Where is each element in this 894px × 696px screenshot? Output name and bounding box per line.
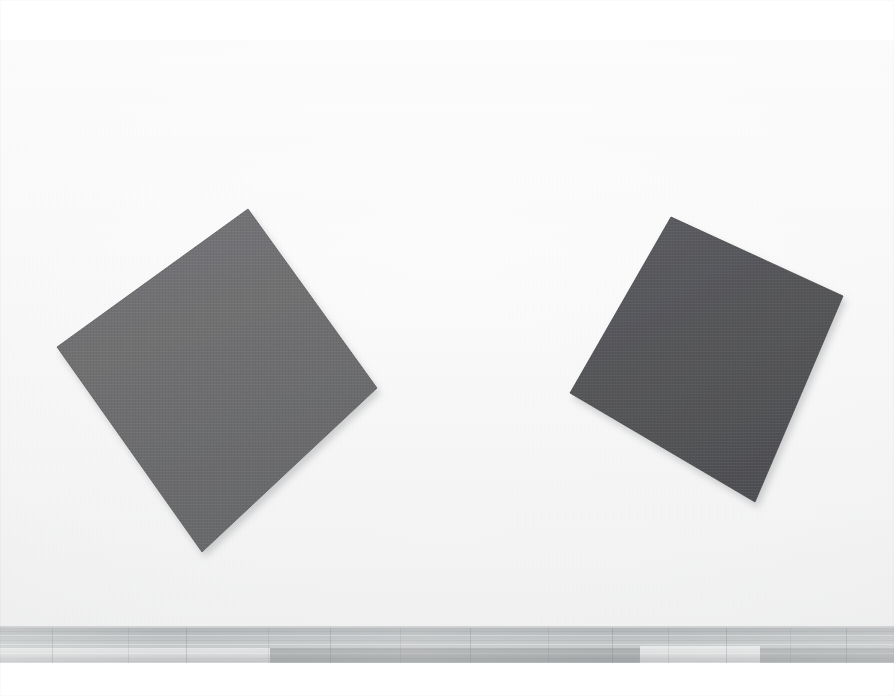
artwork-panel-left-texture (57, 209, 377, 552)
artwork-layer (0, 0, 894, 696)
letterbox-bottom (0, 663, 894, 696)
letterbox-top (0, 0, 894, 40)
artwork-panel-right[interactable] (570, 217, 843, 502)
gallery-photo (0, 0, 894, 696)
artwork-panel-left[interactable] (57, 209, 377, 552)
artwork-panel-right-texture (570, 217, 843, 502)
